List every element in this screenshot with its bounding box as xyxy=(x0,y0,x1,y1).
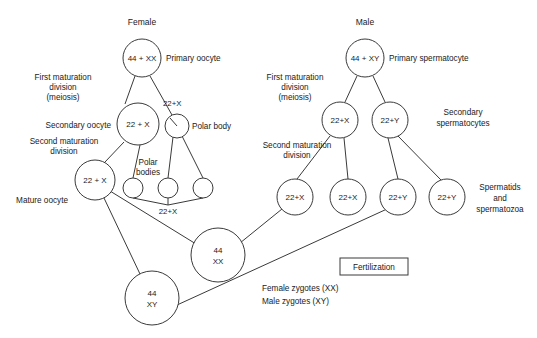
female-first-division-line2: division xyxy=(49,83,77,92)
male-second-division-line2: division xyxy=(283,151,311,160)
zygote-xy-line1: 44 xyxy=(148,289,157,298)
link-secondary-x-to-spermatid-2 xyxy=(344,138,348,179)
first-polar-body-value: 22+X xyxy=(163,99,182,108)
polar-bodies-line2: bodies xyxy=(136,168,160,177)
spermatid-4-node[interactable]: 22+Y xyxy=(429,179,465,215)
male-first-division-line2: division xyxy=(281,83,309,92)
female-first-division-line3: (meiosis) xyxy=(46,93,79,102)
fertilization-box[interactable]: Fertilization xyxy=(340,258,408,275)
spermatid-1-node[interactable]: 22+X xyxy=(277,179,313,215)
mature-oocyte-label: Mature oocyte xyxy=(16,196,68,205)
zygote-xx-line2: XX xyxy=(213,257,224,266)
spermatid-3-value: 22+Y xyxy=(389,193,409,202)
secondary-spermatocyte-y-node[interactable]: 22+Y xyxy=(372,102,408,138)
link-primary-to-secondary-x xyxy=(345,76,357,102)
spermatid-4-value: 22+Y xyxy=(438,193,458,202)
spermatids-label-line3: spermatozoa xyxy=(476,205,524,214)
spermatid-2-value: 22+X xyxy=(339,193,359,202)
polar-body-3-circle[interactable] xyxy=(193,178,213,198)
link-spermatid-x-to-zygote-xx xyxy=(240,209,282,243)
first-polar-body-node[interactable] xyxy=(165,114,189,138)
secondary-spermatocyte-x-node[interactable]: 22+X xyxy=(322,102,358,138)
polar-body-1-circle[interactable] xyxy=(123,178,143,198)
zygote-xy-node[interactable]: 44 XY xyxy=(125,271,179,325)
secondary-oocyte-value: 22 + X xyxy=(126,120,150,129)
diagram-canvas: Female 44 + XX Primary oocyte First matu… xyxy=(0,0,537,338)
male-first-division-line1: First maturation xyxy=(267,73,324,82)
link-mature-oocyte-to-zygote-xx xyxy=(110,191,196,244)
female-first-division-line1: First maturation xyxy=(35,73,92,82)
secondary-spermatocytes-label-line1: Secondary xyxy=(443,108,483,117)
spermatids-label-line2: and xyxy=(493,194,507,203)
primary-oocyte-value: 44 + XX xyxy=(128,54,157,63)
zygote-xy-circle[interactable] xyxy=(125,271,179,325)
male-second-division-line1: Second maturation xyxy=(263,141,332,150)
primary-spermatocyte-value: 44 + XY xyxy=(351,54,380,63)
mature-oocyte-value: 22 + X xyxy=(83,176,107,185)
secondary-oocyte-label: Secondary oocyte xyxy=(45,121,111,130)
female-second-division-line1: Second maturation xyxy=(30,137,99,146)
primary-oocyte-label: Primary oocyte xyxy=(166,54,221,63)
gametogenesis-diagram-page: Female 44 + XX Primary oocyte First matu… xyxy=(0,0,537,338)
link-polar-bracket-left xyxy=(133,198,168,205)
secondary-spermatocytes-label-line2: spermatocytes xyxy=(436,119,489,128)
secondary-spermatocyte-x-value: 22+X xyxy=(331,116,351,125)
mature-oocyte-node[interactable]: 22 + X xyxy=(75,160,115,200)
zygote-xx-line1: 44 xyxy=(214,246,223,255)
polar-bodies-line1: Polar xyxy=(138,158,157,167)
polar-bodies-value: 22+X xyxy=(159,207,178,216)
link-secondary-to-mature-oocyte xyxy=(105,142,124,162)
fertilization-label: Fertilization xyxy=(353,263,395,272)
zygote-xx-circle[interactable] xyxy=(191,228,245,282)
primary-spermatocyte-node[interactable]: 44 + XY xyxy=(346,39,384,77)
female-second-division-line2: division xyxy=(50,147,78,156)
link-primary-to-secondary-oocyte xyxy=(125,76,135,104)
zygote-xx-node[interactable]: 44 XX xyxy=(191,228,245,282)
link-mature-oocyte-to-zygote-xy xyxy=(104,198,140,274)
polar-body-label: Polar body xyxy=(192,122,232,131)
link-first-polar-to-polar-body-3 xyxy=(182,136,203,178)
spermatid-2-node[interactable]: 22+X xyxy=(330,179,366,215)
female-zygotes-note: Female zygotes (XX) xyxy=(262,284,339,293)
link-polar-bracket-right xyxy=(168,198,203,205)
male-zygotes-note: Male zygotes (XY) xyxy=(262,297,329,306)
polar-body-2-circle[interactable] xyxy=(158,178,178,198)
spermatid-3-node[interactable]: 22+Y xyxy=(380,179,416,215)
spermatids-label-line1: Spermatids xyxy=(479,183,520,192)
male-first-division-line3: (meiosis) xyxy=(278,93,311,102)
primary-oocyte-node[interactable]: 44 + XX xyxy=(123,39,161,77)
secondary-spermatocyte-y-value: 22+Y xyxy=(381,116,401,125)
link-primary-to-secondary-y xyxy=(373,76,385,102)
male-title: Male xyxy=(356,17,375,27)
primary-spermatocyte-label: Primary spermatocyte xyxy=(389,54,469,63)
link-secondary-y-to-spermatid-4 xyxy=(398,136,441,180)
female-title: Female xyxy=(128,17,157,27)
secondary-oocyte-node[interactable]: 22 + X xyxy=(117,103,159,145)
zygote-xy-line2: XY xyxy=(147,300,158,309)
spermatid-1-value: 22+X xyxy=(286,193,306,202)
link-first-polar-to-polar-body-2 xyxy=(168,137,173,178)
link-secondary-y-to-spermatid-3 xyxy=(388,138,398,179)
